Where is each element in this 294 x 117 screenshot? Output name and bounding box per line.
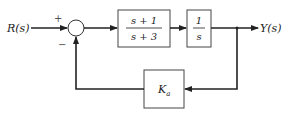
feedback-block: Ka [144, 70, 184, 108]
forward-block-2: 1 s [187, 10, 211, 47]
summing-junction [68, 20, 84, 36]
block2-numerator: 1 [196, 15, 202, 26]
block1-numerator: s + 1 [131, 15, 157, 26]
output-label: Y(s) [260, 22, 282, 35]
block-diagram: R(s) + − s + 1 s + 3 1 s Y(s) Ka [0, 0, 294, 117]
minus-sign: − [58, 39, 66, 50]
forward-block-1: s + 1 s + 3 [118, 10, 170, 47]
block1-denominator: s + 3 [131, 31, 157, 42]
input-label: R(s) [6, 22, 30, 35]
plus-sign: + [54, 13, 62, 24]
block2-denominator: s [196, 31, 201, 42]
